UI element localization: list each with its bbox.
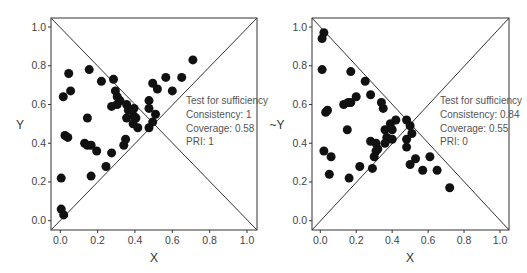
data-points [57, 55, 198, 219]
data-point [325, 170, 334, 179]
y-tick-label: 0.2 [31, 175, 46, 187]
sufficiency-scatter-charts: 0.00.20.40.60.81.00.00.20.40.60.81.0 Y X… [0, 0, 527, 273]
data-point [102, 162, 111, 171]
y-tick-label: 0.4 [292, 137, 307, 149]
annotation-coverage: Coverage: 0.58 [186, 123, 255, 134]
y-tick-label: 0.0 [292, 214, 307, 226]
data-point [323, 106, 332, 115]
y-tick-label: 0.0 [31, 214, 46, 226]
y-tick-label: 0.2 [292, 175, 307, 187]
data-point [87, 172, 96, 181]
data-point [66, 86, 75, 95]
data-point [406, 160, 415, 169]
data-point [63, 133, 72, 142]
x-tick-label: 0.8 [457, 234, 472, 246]
annotation-pri: PRI: 1 [186, 136, 214, 147]
data-point [343, 125, 352, 134]
data-point [319, 147, 328, 156]
data-point [379, 104, 388, 113]
y-axis-label: ~Y [269, 118, 284, 132]
data-point [406, 121, 415, 130]
data-point [346, 98, 355, 107]
data-point [388, 125, 397, 134]
data-point [153, 85, 162, 94]
annotation-title: Test for sufficiency [440, 95, 522, 106]
data-point [145, 123, 154, 132]
data-point [177, 73, 186, 82]
y-tick-label: 0.6 [292, 98, 307, 110]
data-point [402, 135, 411, 144]
y-tick-label: 0.4 [31, 137, 46, 149]
data-point [92, 147, 101, 156]
x-tick-label: 0.0 [53, 234, 68, 246]
data-point [346, 67, 355, 76]
annotation-consistency: Consistency: 1 [186, 109, 252, 120]
data-point [107, 102, 116, 111]
data-point [327, 152, 336, 161]
data-point [402, 143, 411, 152]
data-point [370, 152, 379, 161]
x-tick-label: 0.2 [90, 234, 105, 246]
sufficiency-annotation: Test for sufficiency Consistency: 1 Cove… [186, 95, 268, 147]
data-point [355, 162, 364, 171]
data-point [161, 73, 170, 82]
data-point [97, 77, 106, 86]
data-point [345, 174, 354, 183]
data-point [59, 92, 68, 101]
data-point [59, 210, 68, 219]
data-point [168, 86, 177, 95]
annotation-pri: PRI: 0 [440, 136, 468, 147]
y-axis-label: Y [16, 118, 24, 132]
x-tick-label: 0.0 [313, 234, 328, 246]
annotation-consistency: Consistency: 0.84 [440, 109, 520, 120]
sufficiency-annotation: Test for sufficiency Consistency: 0.84 C… [440, 95, 522, 147]
x-tick-label: 0.6 [165, 234, 180, 246]
data-point [445, 183, 454, 192]
x-axis-label: X [406, 251, 414, 265]
data-point [418, 166, 427, 175]
data-point [368, 164, 377, 173]
data-point [57, 174, 66, 183]
annotation-coverage: Coverage: 0.55 [440, 123, 509, 134]
data-point [119, 141, 128, 150]
y-tick-label: 0.6 [31, 98, 46, 110]
data-point [318, 34, 327, 43]
data-point [381, 139, 390, 148]
data-point [145, 96, 154, 105]
data-point [433, 166, 442, 175]
data-point [318, 65, 327, 74]
x-axis-label: X [150, 251, 158, 265]
data-point [64, 69, 73, 78]
right-panel: 0.00.20.40.60.81.00.00.20.40.60.81.0 ~Y … [269, 18, 522, 265]
x-tick-label: 1.0 [240, 234, 255, 246]
data-point [133, 123, 142, 132]
data-point [109, 75, 118, 84]
annotation-title: Test for sufficiency [186, 95, 268, 106]
x-tick-label: 1.0 [493, 234, 508, 246]
data-point [83, 114, 92, 123]
x-tick-label: 0.6 [421, 234, 436, 246]
data-point [366, 90, 375, 99]
data-point [361, 77, 370, 86]
data-point [188, 55, 197, 64]
data-point [85, 65, 94, 74]
x-tick-label: 0.8 [202, 234, 217, 246]
x-tick-label: 0.4 [128, 234, 143, 246]
y-tick-label: 1.0 [292, 21, 307, 33]
x-tick-label: 0.2 [349, 234, 364, 246]
left-panel: 0.00.20.40.60.81.00.00.20.40.60.81.0 Y X… [16, 18, 268, 265]
data-point [151, 110, 160, 119]
y-tick-label: 0.8 [31, 59, 46, 71]
data-point [107, 148, 116, 157]
y-tick-label: 1.0 [31, 21, 46, 33]
data-point [425, 152, 434, 161]
data-points [318, 28, 455, 192]
x-tick-label: 0.4 [385, 234, 400, 246]
y-tick-label: 0.8 [292, 59, 307, 71]
